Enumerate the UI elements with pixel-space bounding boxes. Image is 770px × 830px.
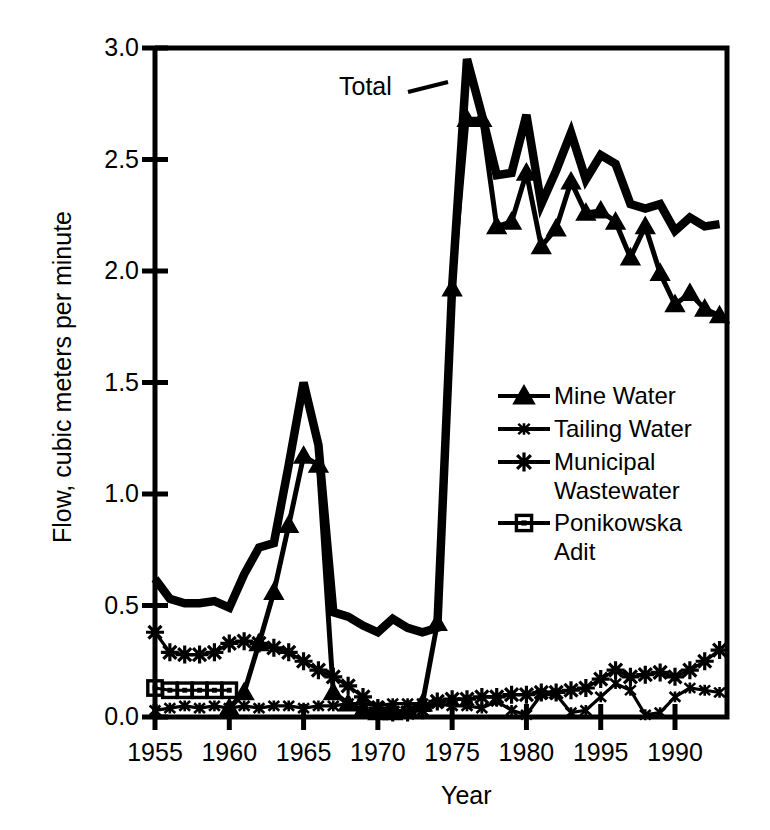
legend-item-label: Tailing Water [552,414,692,443]
x-axis-title: Year [441,781,492,810]
y-axis-title-wrapper: Flow, cubic meters per minute [48,67,82,687]
asterisk-icon [496,447,552,477]
legend-item: Mine Water [496,381,724,411]
legend-item-label: Ponikowska Adit [552,508,682,566]
square-icon [496,508,552,538]
x-tick-label: 1975 [412,738,492,767]
annotation-layer [408,82,448,92]
y-tick-label: 2.0 [85,256,139,285]
y-axis-title: Flow, cubic meters per minute [48,211,77,543]
total-annotation-label: Total [339,72,392,101]
y-tick-label: 3.0 [85,33,139,62]
legend-item: Municipal Wastewater [496,447,724,505]
x-tick-label: 1960 [189,738,269,767]
y-tick-label: 2.5 [85,145,139,174]
x-tick-label: 1970 [338,738,418,767]
legend-item-label: Mine Water [552,381,676,410]
x-tick-label: 1955 [115,738,195,767]
x-tick-label: 1995 [561,738,641,767]
x-tick-label: 1965 [264,738,344,767]
x-tick-label: 1990 [635,738,715,767]
y-tick-label: 0.5 [85,591,139,620]
x-tick-label: 1980 [486,738,566,767]
legend-item-label: Municipal Wastewater [552,447,680,505]
y-tick-label: 1.5 [85,368,139,397]
y-tick-label: 0.0 [85,702,139,731]
legend-item: Tailing Water [496,414,724,444]
chart-figure: Flow, cubic meters per minute Year 0.00.… [0,0,770,830]
series-ponikowska-adit [148,681,237,698]
small-star-icon [496,414,552,444]
chart-legend: Mine WaterTailing WaterMunicipal Wastewa… [496,381,724,569]
legend-item: Ponikowska Adit [496,508,724,566]
filled-triangle-icon [496,381,552,411]
y-tick-label: 1.0 [85,479,139,508]
